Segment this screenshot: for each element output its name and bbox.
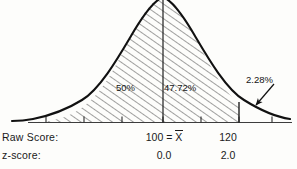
shaded-area-under-curve	[28, 0, 248, 128]
upper-raw-score-value: 120	[206, 131, 250, 143]
raw-score-row-label: Raw Score:	[2, 131, 58, 143]
z-score-row-label: z-score:	[2, 149, 41, 161]
region-label-upper-tail: 2.28%	[246, 74, 273, 85]
tail-annotation-arrow	[256, 84, 274, 105]
x-bar-symbol: X	[175, 131, 182, 143]
region-label-left-half: 50%	[116, 82, 135, 93]
upper-z-score-value: 2.0	[206, 149, 250, 161]
mean-raw-prefix: 100 =	[146, 131, 176, 143]
mean-raw-score-value: 100 = X	[132, 131, 196, 143]
normal-distribution-figure: 50% 47.72% 2.28% Raw Score: z-score: 100…	[0, 0, 297, 169]
mean-z-score-value: 0.0	[132, 149, 196, 161]
region-label-mean-to-z2: 47.72%	[164, 82, 196, 93]
